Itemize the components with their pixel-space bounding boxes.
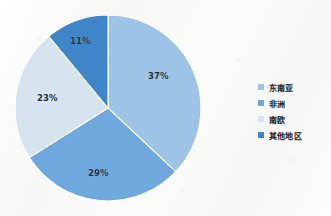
legend-label-feizhou: 非洲: [269, 98, 285, 109]
legend-swatch-icon-qitadiqu: [258, 132, 264, 138]
legend-item-qitadiqu[interactable]: 其他地区: [258, 127, 326, 143]
legend-label-nanou: 南欧: [269, 114, 285, 125]
legend-item-dongnanya[interactable]: 东南亚: [258, 79, 326, 95]
slice-value-label-dongnanya: 37%: [148, 71, 169, 81]
pie-chart-figure: 37% 29% 23% 11% 东南亚 非洲 南欧 其他地区: [0, 0, 331, 216]
chart-legend: 东南亚 非洲 南欧 其他地区: [258, 79, 326, 143]
legend-label-qitadiqu: 其他地区: [269, 130, 302, 141]
legend-swatch-icon-feizhou: [258, 100, 264, 106]
slice-value-label-feizhou: 29%: [88, 168, 109, 178]
slice-value-label-nanou: 23%: [37, 93, 58, 103]
legend-swatch-icon-dongnanya: [258, 84, 264, 90]
legend-item-nanou[interactable]: 南欧: [258, 111, 326, 127]
legend-swatch-icon-nanou: [258, 116, 264, 122]
legend-label-dongnanya: 东南亚: [269, 82, 294, 93]
legend-item-feizhou[interactable]: 非洲: [258, 95, 326, 111]
slice-value-label-qitadiqu: 11%: [70, 36, 91, 46]
